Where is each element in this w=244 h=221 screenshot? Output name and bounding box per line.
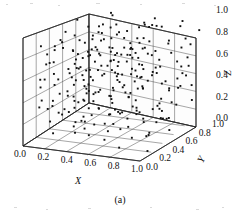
scatter-point (54, 49, 56, 51)
scatter-point (168, 89, 170, 91)
figure-caption: (a) (114, 194, 125, 206)
scatter-point (159, 66, 161, 68)
scatter-point (110, 37, 112, 39)
scatter-point (83, 116, 85, 118)
z-tick-1: 0.2 (216, 92, 228, 102)
scatter-point (137, 57, 139, 59)
scatter-point (160, 98, 162, 100)
z-tick-5: 1.0 (216, 5, 228, 15)
scatter-point (59, 93, 61, 95)
scatter-point (113, 59, 115, 61)
scatter-point (98, 107, 100, 109)
scatter-point (75, 59, 77, 61)
scatter-point (126, 61, 128, 63)
scatter-point (116, 34, 118, 36)
scatter-point (176, 61, 178, 63)
scatter-point (188, 65, 190, 67)
scatter-point (76, 67, 78, 69)
scatter-point (73, 84, 75, 86)
scatter-point (64, 108, 66, 110)
scatter-point (67, 95, 69, 97)
scatter-point (52, 100, 54, 102)
scatter-point (141, 85, 143, 87)
scatter-point (139, 111, 141, 113)
scatter-point (81, 74, 83, 76)
scatter-point (88, 107, 90, 109)
scatter-point (92, 100, 94, 102)
scatter-point (136, 107, 138, 109)
scatter-point (171, 101, 173, 103)
scatter-point (123, 84, 125, 86)
scatter-point (131, 137, 133, 139)
scatter-point (41, 100, 43, 102)
scatter-point (60, 39, 62, 41)
y-tick-5: 1.0 (212, 119, 224, 129)
x-axis-label: X (74, 175, 82, 186)
scatter-point (176, 78, 178, 80)
scatter-point (159, 108, 161, 110)
scatter-point (185, 74, 187, 76)
scatter-point (79, 39, 81, 41)
scatter-point (131, 68, 133, 70)
scatter-point (191, 99, 193, 101)
scatter-point (94, 61, 96, 63)
scatter-point (47, 108, 49, 110)
scatter-point (115, 24, 117, 26)
scatter-point (101, 75, 103, 77)
scatter-point (135, 99, 137, 101)
scatter-point (113, 89, 115, 91)
scatter-point (72, 50, 74, 52)
scatter-point (101, 32, 103, 34)
scatter-point (98, 91, 100, 93)
scatter-point (118, 61, 120, 63)
scatter-point (52, 132, 54, 134)
scatter-point (61, 41, 63, 43)
scatter-point (161, 83, 163, 85)
scatter-point (89, 54, 91, 56)
scatter-point (165, 80, 167, 82)
scatter-point (88, 134, 90, 136)
scatter-point (127, 54, 129, 56)
scatter-point (49, 121, 51, 123)
scatter-point (93, 124, 95, 126)
scatter-point (148, 134, 150, 136)
scatter-point (142, 118, 144, 120)
scatter-point (168, 40, 170, 42)
scatter-point (104, 123, 106, 125)
y-tick-2: 0.4 (172, 145, 184, 155)
scatter-point (130, 92, 132, 94)
scatter-point (119, 81, 121, 83)
scatter-point (116, 79, 118, 81)
scatter-point (152, 108, 154, 110)
scatter-point (117, 73, 119, 75)
scatter-point (83, 79, 85, 81)
scatter-point (102, 23, 104, 25)
scatter-point (99, 54, 101, 56)
scatter-point (157, 105, 159, 107)
scatter-point (117, 65, 119, 67)
scatter-point (161, 26, 163, 28)
scatter-point (74, 132, 76, 134)
scatter-point (126, 30, 128, 32)
scatter-point (132, 106, 134, 108)
scatter-point (110, 98, 112, 100)
figure-3d-scatter: 0.00.20.40.60.81.0 0.00.20.40.60.81.0 0.… (0, 0, 244, 221)
scatter-point (147, 80, 149, 82)
scatter-point (168, 87, 170, 89)
scatter-point (168, 117, 170, 119)
scatter-point (123, 47, 125, 49)
scatter-point (145, 135, 147, 137)
scatter-point (147, 53, 149, 55)
y-tick-1: 0.2 (159, 153, 171, 163)
y-tick-3: 0.6 (186, 136, 198, 146)
scatter-point (84, 128, 86, 130)
scatter-point (143, 121, 145, 123)
scatter-point (112, 87, 114, 89)
scatter-point (175, 104, 177, 106)
scatter-point (77, 101, 79, 103)
scatter-point (136, 37, 138, 39)
scatter-point (82, 57, 84, 59)
scatter-point (120, 54, 122, 56)
scatter-point (46, 53, 48, 55)
scatter-point (166, 118, 168, 120)
